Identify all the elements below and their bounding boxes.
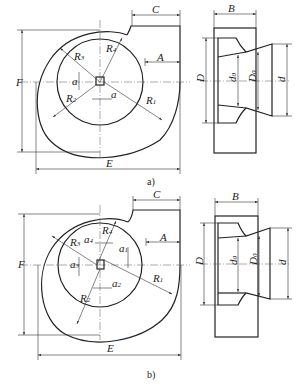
volute-front-view-a: R3 R4 R1 R2 a a A C E F <box>15 3 190 174</box>
view-b: R3 R4 R1 R2 a4 a1 a3 a2 A C E F <box>17 188 292 381</box>
label-A: A <box>156 51 164 63</box>
label-D0: D0 <box>246 70 258 83</box>
caption-b: b) <box>147 369 155 381</box>
label-a-horizontal: a <box>111 88 117 100</box>
label-a1: a1 <box>119 242 128 254</box>
volute-front-view-b: R3 R4 R1 R2 a4 a1 a3 a2 A C E F <box>17 188 190 360</box>
side-view-a: B D d0 D0 d <box>194 2 292 153</box>
label-D: D <box>194 74 206 83</box>
label-E: E <box>105 157 113 169</box>
label-r4: R4 <box>105 42 117 54</box>
label-r1: R1 <box>145 94 156 106</box>
volute-drawing: R3 R4 R1 R2 a a A C E F <box>0 0 302 389</box>
label-E: E <box>106 342 114 354</box>
label-d0: d0 <box>227 256 239 266</box>
label-d0: d0 <box>226 73 238 83</box>
label-A: A <box>159 231 167 243</box>
label-B: B <box>232 190 239 202</box>
label-r1: R1 <box>152 272 163 284</box>
label-D0: D0 <box>247 253 259 266</box>
caption-a: a) <box>147 176 155 188</box>
label-C: C <box>153 188 161 200</box>
label-d: d <box>275 76 287 82</box>
label-r2: R2 <box>65 92 77 104</box>
label-a3: a3 <box>70 258 80 270</box>
label-d: d <box>276 259 288 265</box>
label-D: D <box>193 257 205 266</box>
label-r3: R3 <box>73 50 85 62</box>
label-r2: R2 <box>79 292 91 304</box>
side-view-b: B D d0 D0 d <box>193 190 292 337</box>
label-F: F <box>15 76 23 88</box>
label-r4: R4 <box>101 224 113 236</box>
label-C: C <box>152 3 160 15</box>
label-B: B <box>228 2 235 14</box>
label-a-vertical: a <box>72 75 78 87</box>
label-a4: a4 <box>84 233 94 245</box>
label-r3: R3 <box>69 236 81 248</box>
label-a2: a2 <box>112 277 122 289</box>
label-F: F <box>17 258 25 270</box>
view-a: R3 R4 R1 R2 a a A C E F <box>15 2 292 188</box>
